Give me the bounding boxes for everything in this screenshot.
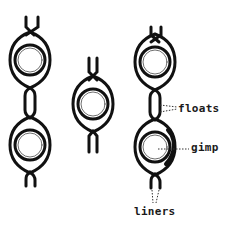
floats-label: floats (178, 103, 220, 114)
diagram-canvas: floats gimp liners (0, 0, 236, 227)
middle-figure (73, 58, 113, 152)
gimp-label: gimp (191, 142, 219, 153)
floats-leader-2 (160, 109, 177, 112)
liners-leader-2 (156, 190, 159, 203)
left-figure (10, 17, 50, 186)
floats-leader-1 (160, 105, 177, 107)
liners-leader-1 (152, 190, 153, 203)
liners-label: liners (134, 206, 176, 217)
right-figure (135, 27, 175, 188)
